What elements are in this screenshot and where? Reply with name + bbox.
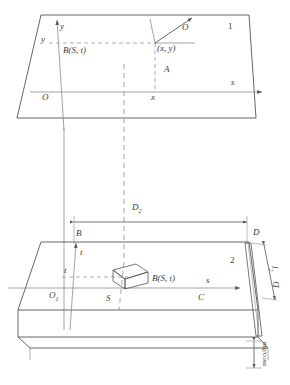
dimension-d-label: D xyxy=(272,282,281,289)
upper-axis-s-label: s xyxy=(231,78,235,87)
lower-axis-t-label: t xyxy=(80,248,83,257)
dimension-line-d2 xyxy=(74,216,247,244)
thickness-note-label: mg/cosα xyxy=(261,342,268,366)
lower-axis-t-tick-label: t xyxy=(64,266,67,275)
lower-plane-axis-t xyxy=(70,243,76,330)
projection-line-center-dashed-lower xyxy=(119,262,124,310)
lower-block-label: B(S, t) xyxy=(152,274,175,283)
upper-point-a-label: A xyxy=(164,65,170,74)
upper-axis-x-label: x xyxy=(151,93,155,102)
upper-plane-id-label: 1 xyxy=(228,22,233,31)
upper-plane-outline xyxy=(17,15,256,118)
lower-origin-label: O1 xyxy=(49,291,58,303)
upper-plane-axis-y xyxy=(57,20,64,130)
upper-axis-y-tick-label: y xyxy=(41,35,45,44)
upper-origin-label: O xyxy=(42,93,49,102)
lower-plane-right-rib xyxy=(245,243,262,336)
upper-point-coordinates-label: (x, y) xyxy=(157,44,175,53)
lower-corner-c-label: C xyxy=(198,293,204,302)
upper-point-tick xyxy=(150,19,155,43)
lower-plane-id-label: 2 xyxy=(230,256,235,265)
upper-axis-y-label: y xyxy=(60,22,64,31)
diagram-vector-layer xyxy=(0,0,290,385)
figure-canvas: y y B(S, t) (x, y) O A 1 s O x D2 B t t … xyxy=(0,0,290,385)
lower-corner-d-label: D xyxy=(253,228,260,237)
block-b-s-t xyxy=(113,264,148,289)
dimension-l2-label: l2 xyxy=(267,266,279,271)
dimension-d2-label: D2 xyxy=(132,203,141,215)
lower-foot-s-label: S xyxy=(106,294,111,303)
dimension-line-thickness xyxy=(246,341,262,368)
upper-block-label: B(S, t) xyxy=(63,46,86,55)
lower-axis-s-label: s xyxy=(206,276,210,285)
lower-corner-b-label: B xyxy=(76,229,82,238)
lower-slab-thickness xyxy=(18,310,268,360)
vector-o-label: O xyxy=(182,23,189,32)
